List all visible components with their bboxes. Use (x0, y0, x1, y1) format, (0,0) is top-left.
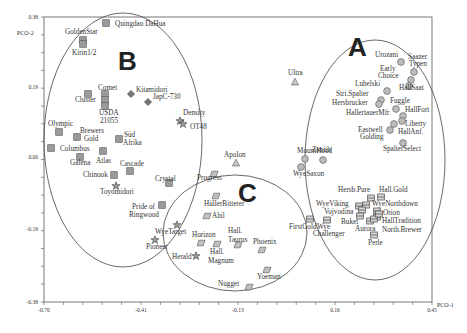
y-axis-label: PCO-2 (17, 30, 34, 36)
svg-text:Zenith: Zenith (312, 146, 331, 154)
svg-text:Afrika: Afrika (123, 139, 143, 147)
svg-text:Pioneer: Pioneer (146, 243, 169, 251)
svg-text:Hall.: Hall. (228, 227, 242, 235)
svg-text:Ringwood: Ringwood (129, 211, 159, 219)
svg-text:Crystal: Crystal (155, 175, 176, 183)
svg-text:Taurus: Taurus (228, 236, 248, 244)
svg-text:Fuggle: Fuggle (390, 97, 410, 105)
svg-text:HallTradition: HallTradition (382, 217, 421, 225)
svg-text:Ultra: Ultra (288, 69, 304, 77)
svg-text:Vojvodina: Vojvodina (324, 208, 354, 216)
svg-text:Liberty: Liberty (405, 120, 427, 128)
svg-text:GoldenStar: GoldenStar (65, 28, 98, 36)
svg-text:Golding: Golding (360, 133, 384, 141)
pco-scatter-plot: 0.38 0.19 0.00 -0.19 -0.38 -0.70 -0.41 -… (0, 0, 467, 333)
svg-text:HallSaat: HallSaat (399, 84, 424, 92)
svg-text:Olympic: Olympic (48, 120, 73, 128)
svg-text:Columbus: Columbus (60, 145, 90, 153)
cluster-b-label: B (118, 46, 137, 76)
svg-text:Toyomidori: Toyomidori (100, 188, 134, 196)
svg-text:HallertauerMfr: HallertauerMfr (346, 109, 390, 117)
x-tick-label: 0.45 (427, 307, 437, 313)
svg-text:Horizon: Horizon (192, 231, 216, 239)
svg-text:Apolon: Apolon (224, 151, 246, 159)
svg-text:Density: Density (183, 109, 206, 117)
svg-text:Orion: Orion (383, 209, 400, 217)
svg-text:Stri.Spalter: Stri.Spalter (336, 90, 369, 98)
y-tick-label: 0.38 (28, 14, 38, 20)
svg-text:Nugget: Nugget (218, 280, 239, 288)
svg-text:JapC-730: JapC-730 (153, 93, 181, 101)
y-tick-label: -0.19 (27, 226, 39, 232)
svg-text:Cluster: Cluster (75, 96, 96, 104)
svg-text:Chinook: Chinook (83, 171, 108, 179)
svg-text:Magnum: Magnum (208, 257, 234, 265)
x-tick-label: -0.70 (38, 307, 50, 313)
svg-text:WyeNorthdown: WyeNorthdown (372, 200, 418, 208)
y-tick-label: 0.00 (28, 154, 38, 160)
svg-text:North.Brewer: North.Brewer (382, 226, 422, 234)
svg-text:Hersb.Pure: Hersb.Pure (338, 186, 370, 194)
svg-text:HallAnf.: HallAnf. (398, 128, 424, 136)
svg-text:Perle: Perle (368, 239, 383, 247)
svg-text:Comet: Comet (98, 84, 117, 92)
y-axis-ticks (41, 17, 44, 302)
svg-text:Gold: Gold (84, 135, 99, 143)
y-tick-label: 0.19 (28, 84, 38, 90)
svg-text:Brewers: Brewers (80, 127, 104, 135)
svg-text:Lubelski: Lubelski (355, 80, 380, 88)
x-axis-label: PCO-1 (437, 302, 454, 308)
svg-text:Hall.Gold: Hall.Gold (379, 186, 408, 194)
x-axis-ticks (44, 302, 432, 305)
svg-text:Quingdao DaHua: Quingdao DaHua (115, 20, 166, 28)
y-tick-label: -0.38 (27, 299, 39, 305)
svg-text:Pride of: Pride of (132, 203, 156, 211)
svg-text:Progress: Progress (197, 174, 222, 182)
svg-text:Galena: Galena (70, 159, 91, 167)
svg-text:Challenger: Challenger (313, 230, 345, 238)
svg-text:Süd: Süd (124, 131, 136, 139)
svg-text:Atlas: Atlas (96, 157, 111, 165)
svg-text:Yoeman: Yoeman (257, 273, 281, 281)
svg-text:Aurora: Aurora (355, 225, 376, 233)
svg-text:WyeTarget: WyeTarget (155, 228, 186, 236)
svg-text:Herald: Herald (172, 253, 192, 261)
svg-text:Hall.: Hall. (210, 248, 224, 256)
svg-text:WyeViking: WyeViking (316, 200, 349, 208)
svg-text:WyeSaxon: WyeSaxon (293, 170, 325, 178)
x-tick-label: -0.13 (232, 307, 244, 313)
svg-text:Ahil: Ahil (212, 212, 225, 220)
svg-text:USDA: USDA (99, 109, 119, 117)
svg-text:OT48: OT48 (190, 123, 207, 131)
cluster-a-label: A (348, 32, 367, 62)
svg-text:Phoenix: Phoenix (253, 238, 277, 246)
svg-text:Typen: Typen (409, 60, 427, 68)
svg-text:Hersbrucker: Hersbrucker (332, 99, 368, 107)
x-tick-label: -0.41 (135, 307, 147, 313)
svg-text:SpalterSelect: SpalterSelect (383, 145, 421, 153)
svg-text:Kirin1/2: Kirin1/2 (72, 49, 97, 57)
svg-text:HüllerBitterer: HüllerBitterer (204, 200, 245, 208)
svg-text:21055: 21055 (100, 117, 118, 125)
x-tick-label: 0.16 (330, 307, 340, 313)
svg-text:Choice: Choice (378, 72, 398, 80)
svg-text:HallFort: HallFort (405, 106, 429, 114)
svg-text:Cascade: Cascade (120, 160, 144, 168)
svg-text:Urozani: Urozani (375, 51, 398, 59)
